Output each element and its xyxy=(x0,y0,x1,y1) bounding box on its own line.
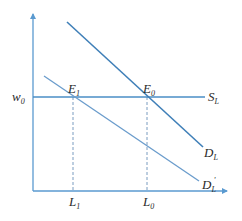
demand-shifted-label: DL' xyxy=(201,176,216,194)
wage-label: w0 xyxy=(12,89,25,106)
labor-l0-label: L0 xyxy=(142,194,154,211)
demand-label: DL xyxy=(203,145,218,162)
labor-market-diagram: w0 SL E1 E0 DL DL' L1 L0 xyxy=(0,0,242,221)
equilibrium-e0-label: E0 xyxy=(142,81,155,98)
supply-label: SL xyxy=(208,89,220,106)
labor-l1-label: L1 xyxy=(68,194,80,211)
equilibrium-e1-label: E1 xyxy=(67,81,80,98)
demand-curve-DL xyxy=(67,22,203,147)
